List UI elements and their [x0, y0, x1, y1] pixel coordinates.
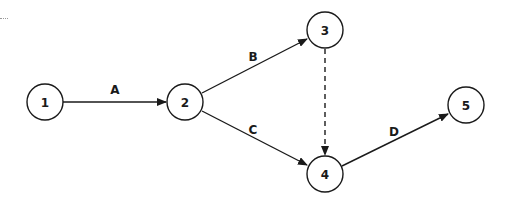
- node-label-1: 1: [41, 96, 49, 110]
- edge-label-a: A: [110, 83, 120, 97]
- node-label-3: 3: [321, 24, 329, 38]
- node-4: 4: [307, 156, 343, 192]
- edge-c: C: [202, 111, 307, 165]
- edge-label-c: C: [249, 123, 258, 137]
- edge-label-d: D: [389, 125, 399, 139]
- edge-a: A: [63, 83, 166, 102]
- edge-label-b: B: [248, 50, 257, 64]
- node-3: 3: [307, 12, 343, 48]
- node-5: 5: [448, 87, 484, 123]
- arrow-4-to-5: [342, 114, 448, 166]
- node-label-5: 5: [462, 99, 470, 113]
- edge-b: B: [202, 39, 307, 93]
- node-2: 2: [167, 84, 203, 120]
- arrow-2-to-4: [202, 111, 307, 165]
- edge-d: D: [342, 114, 448, 166]
- network-diagram: A B C D 1 2 3 4 5: [0, 0, 507, 204]
- arrow-2-to-3: [202, 39, 307, 93]
- node-label-2: 2: [181, 96, 189, 110]
- node-1: 1: [27, 84, 63, 120]
- node-label-4: 4: [321, 168, 329, 182]
